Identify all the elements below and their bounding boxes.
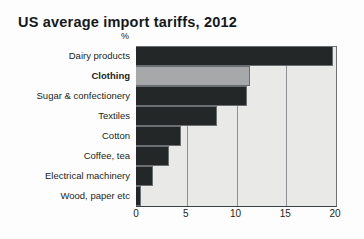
category-label: Sugar & confectionery — [0, 86, 130, 106]
x-axis-tick-labels: 05101520 — [0, 208, 364, 224]
bar-row — [136, 46, 335, 66]
category-label: Wood, paper etc — [0, 186, 130, 206]
bar-clothing — [136, 66, 250, 86]
category-label: Clothing — [0, 66, 130, 86]
category-label: Dairy products — [0, 46, 130, 66]
bar-row — [136, 166, 335, 186]
bar-coffee-tea — [136, 146, 169, 166]
bar-wood-paper-etc — [136, 186, 141, 206]
bar-row — [136, 186, 335, 206]
x-tick-label: 5 — [183, 208, 189, 219]
category-label: Coffee, tea — [0, 146, 130, 166]
bars-layer — [136, 46, 335, 205]
chart-title: US average import tariffs, 2012 — [18, 14, 237, 30]
category-axis-labels: Dairy productsClothingSugar & confection… — [0, 46, 130, 205]
category-label: Textiles — [0, 106, 130, 126]
bar-row — [136, 126, 335, 146]
bar-dairy-products — [136, 46, 333, 66]
x-tick-label: 20 — [329, 208, 340, 219]
category-label: Electrical machinery — [0, 166, 130, 186]
x-tick-label: 10 — [230, 208, 241, 219]
bar-row — [136, 106, 335, 126]
bar-textiles — [136, 106, 217, 126]
x-tick-label: 0 — [133, 208, 139, 219]
bar-row — [136, 86, 335, 106]
bar-sugar-confectionery — [136, 86, 247, 106]
bar-row — [136, 146, 335, 166]
x-tick-label: 15 — [280, 208, 291, 219]
bar-electrical-machinery — [136, 166, 153, 186]
bar-row — [136, 66, 335, 86]
axis-unit-label: % — [121, 31, 129, 41]
chart-figure: US average import tariffs, 2012 % Dairy … — [0, 0, 364, 239]
category-label: Cotton — [0, 126, 130, 146]
bar-cotton — [136, 126, 181, 146]
